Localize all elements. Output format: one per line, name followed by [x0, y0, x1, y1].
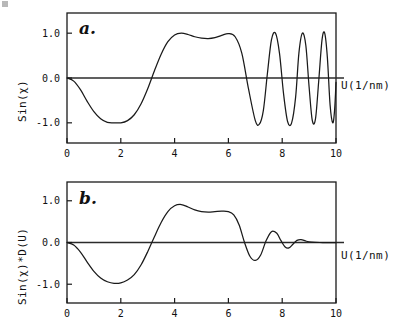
y-tick-label: 1.0 [42, 195, 60, 206]
x-tick-label: 8 [279, 308, 285, 319]
y-tick-label: 0.0 [42, 73, 60, 84]
data-curve [67, 204, 336, 283]
x-tick-label: 4 [172, 308, 178, 319]
x-tick-label: 0 [64, 308, 70, 319]
y-tick-label: -1.0 [36, 117, 60, 128]
panel-b-plot: 0246810-1.00.01.0 [0, 170, 413, 335]
x-tick-label: 0 [64, 148, 70, 159]
y-tick-label: 1.0 [42, 28, 60, 39]
y-tick-label: 0.0 [42, 237, 60, 248]
x-tick-label: 10 [330, 148, 342, 159]
panel-a-plot: 0246810-1.00.01.0 [0, 0, 413, 170]
x-tick-label: 8 [279, 148, 285, 159]
x-tick-label: 6 [225, 148, 231, 159]
x-tick-label: 10 [330, 308, 342, 319]
x-tick-label: 4 [172, 148, 178, 159]
x-tick-label: 6 [225, 308, 231, 319]
y-tick-label: -1.0 [36, 279, 60, 290]
x-tick-label: 2 [118, 148, 124, 159]
x-tick-label: 2 [118, 308, 124, 319]
